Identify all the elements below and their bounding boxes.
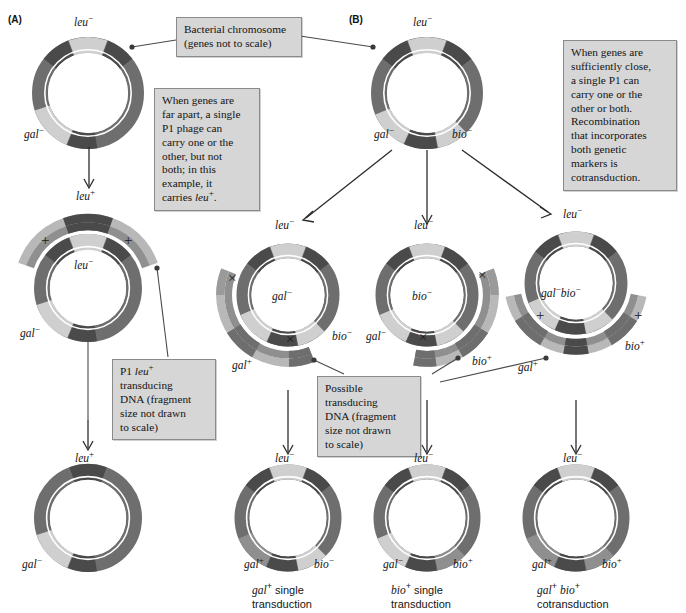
gene-name: bio <box>452 128 467 140</box>
caption-line-2: transduction <box>252 598 312 612</box>
gene-label-gal-minus-recipient-a: gal− <box>20 327 40 339</box>
callout-line: size not drawn <box>120 407 209 421</box>
gene-label-leu-plus-product-a: leu+ <box>75 452 94 464</box>
gene-name-2: bio <box>561 287 576 299</box>
crossover-x-right-recomb3: + <box>634 308 642 323</box>
caption-line-1: gal+ bio+ <box>537 583 609 598</box>
gene-charge: + <box>259 555 264 565</box>
gene-name: leu <box>414 452 428 464</box>
gene-label-gal-minus-recomb1: gal− <box>272 290 292 302</box>
callout-far-apart: When genes are far apart, a single P1 ph… <box>154 88 260 211</box>
transduction-figure: .ringDark { fill: #6e6e6e; } .ringMid { … <box>0 0 686 613</box>
lead-gal-fragment <box>311 357 344 374</box>
gene-charge: + <box>247 356 252 366</box>
caption-gene-2: bio <box>560 584 575 596</box>
gene-charge: − <box>35 324 40 334</box>
gene-label-gal-minus-recomb2: gal− <box>366 330 386 342</box>
caption-charge-2: + <box>575 581 580 591</box>
callout-line: to scale) <box>120 421 209 435</box>
gene-charge: + <box>487 352 492 362</box>
gene-charge: − <box>39 125 44 135</box>
gene-charge: + <box>617 555 622 565</box>
gene-label-bio-plus-fragment-recomb2: bio+ <box>472 355 492 367</box>
crossover-x-lower-recomb1: × <box>286 332 294 347</box>
gene-name: gal <box>541 287 556 299</box>
gene-name: leu <box>76 190 90 202</box>
gene-label-leu-plus-fragment-a: leu+ <box>76 190 95 202</box>
gene-label-gal-plus-fragment-recomb1: gal+ <box>232 359 252 371</box>
arrow-a-2 <box>83 420 93 450</box>
callout-line: size not drawn <box>325 424 414 438</box>
gene-label-leu-minus-product-2: leu− <box>414 452 433 464</box>
gene-label-gal-plus-product-3: gal+ <box>532 558 552 570</box>
gene-label-leu-minus-recomb1: leu− <box>275 219 294 231</box>
callout-line: both; in this <box>162 163 253 177</box>
callout-sufficiently-close: When genes are sufficiently close, a sin… <box>563 40 677 191</box>
gene-label-leu-minus-recipient-a: leu− <box>74 259 93 271</box>
gene-charge: + <box>89 449 94 459</box>
gene-label-bio-minus-recomb2: bio− <box>412 290 432 302</box>
callout-line: far apart, a single <box>162 108 253 122</box>
gene-name: gal <box>518 361 533 373</box>
callout-line: cotransduction. <box>571 171 670 185</box>
callout-line: P1 leu+ <box>120 365 209 379</box>
gene-name: bio <box>472 355 487 367</box>
gene-label-leu-minus-product-1: leu− <box>275 452 294 464</box>
callout-line: example, it <box>162 177 253 191</box>
gene-charge: + <box>533 358 538 368</box>
gene-label-leu-minus-recomb2: leu− <box>414 219 433 231</box>
gene-charge: − <box>88 256 93 266</box>
callout-line: other or both. <box>571 102 670 116</box>
callout-line: Possible <box>325 382 414 396</box>
gene-name: bio <box>453 558 468 570</box>
callout-line: P1 phage can <box>162 122 253 136</box>
gene-name: leu <box>563 208 577 220</box>
gene-label-gal-plus-product-1: gal+ <box>244 558 264 570</box>
gene-label-gal-minus-donor-b: gal− <box>374 128 394 140</box>
arrow-b-right <box>462 150 551 218</box>
gene-charge-2: − <box>575 284 580 294</box>
gene-charge: − <box>577 205 582 215</box>
callout-line: that incorporates <box>571 129 670 143</box>
callout-line: When genes are <box>162 94 253 108</box>
crossover-plus-right-a: + <box>124 233 132 248</box>
gene-charge: − <box>467 125 472 135</box>
panel-label-b: (B) <box>349 14 363 25</box>
gene-charge: − <box>381 327 386 337</box>
caption-rest: single <box>411 584 443 596</box>
gene-name: leu <box>275 452 289 464</box>
gene-charge: − <box>577 449 582 459</box>
gene-label-leu-minus-donor-a: leu− <box>74 16 93 28</box>
gene-name: bio <box>332 330 347 342</box>
callout-line: other, but not <box>162 150 253 164</box>
callout-line: (genes not to scale) <box>184 37 295 51</box>
gene-charge: − <box>428 449 433 459</box>
gene-charge: − <box>88 13 93 23</box>
caption-gene: bio <box>391 584 406 596</box>
gene-name: leu <box>563 452 577 464</box>
gene-name: gal <box>22 558 37 570</box>
gene-name: gal <box>24 128 39 140</box>
gene-charge: + <box>547 555 552 565</box>
gene-name: leu <box>74 16 88 28</box>
gene-label-gal-minus-product-a: gal− <box>22 558 42 570</box>
gene-label-bio-minus-donor-b: bio− <box>452 128 472 140</box>
gene-charge: − <box>389 125 394 135</box>
gene-charge: + <box>90 187 95 197</box>
lead-bacterial-chromosome-b <box>300 36 376 50</box>
gene-label-bio-plus-product-3: bio+ <box>602 558 622 570</box>
gene-charge: − <box>289 449 294 459</box>
arrow-b-product-1 <box>283 390 293 454</box>
gene-charge: − <box>347 327 352 337</box>
arrow-b-left <box>303 150 392 222</box>
gene-name: gal <box>272 290 287 302</box>
gene-charge: − <box>329 555 334 565</box>
gene-name: gal <box>244 558 259 570</box>
gene-charge: − <box>287 287 292 297</box>
gene-name: bio <box>602 558 617 570</box>
bio-plus-transductant <box>381 472 473 564</box>
callout-line: sufficiently close, <box>571 60 670 74</box>
caption-charge: + <box>552 581 557 591</box>
lead-p1-transducing-dna <box>154 265 168 357</box>
gene-name: leu <box>275 219 289 231</box>
